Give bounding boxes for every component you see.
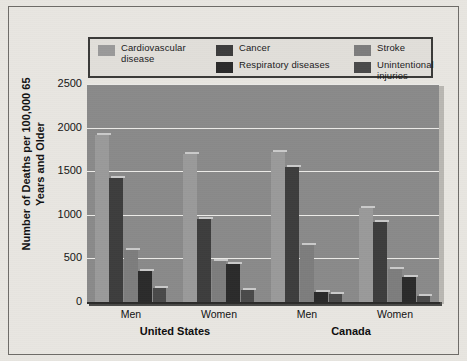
bar-top-face bbox=[228, 262, 242, 264]
bar-top-face bbox=[316, 290, 330, 292]
y-tick-label-1500: 1500 bbox=[38, 164, 82, 176]
legend-label: Cancer bbox=[239, 43, 270, 54]
bar-top-face bbox=[126, 248, 140, 250]
figure-chart-deaths-by-cause: Cardiovascular diseaseCancerRespiratory … bbox=[0, 0, 467, 361]
y-axis-tick-labels: 05001000150020002500 bbox=[36, 0, 82, 361]
bar-top-face bbox=[111, 176, 125, 178]
bar bbox=[138, 271, 152, 302]
legend-column-2: CancerRespiratory diseases bbox=[216, 43, 330, 77]
bar bbox=[109, 178, 123, 302]
bar-top-face bbox=[243, 288, 257, 290]
gridline-1000 bbox=[87, 215, 439, 216]
chart-legend: Cardiovascular diseaseCancerRespiratory … bbox=[88, 37, 433, 78]
x-tick-label-women-4: Women bbox=[351, 308, 439, 320]
bar bbox=[226, 264, 240, 302]
bar bbox=[124, 250, 138, 302]
bar-top-face bbox=[419, 294, 433, 296]
legend-column-1: Cardiovascular disease bbox=[98, 43, 186, 60]
bar bbox=[300, 245, 314, 302]
bar bbox=[285, 167, 299, 302]
y-tick-label-0: 0 bbox=[38, 295, 82, 307]
bar bbox=[95, 135, 109, 302]
bar-top-face bbox=[390, 267, 404, 269]
bar-top-face bbox=[97, 133, 111, 135]
bar-top-face bbox=[404, 275, 418, 277]
x-tick-label-men-3: Men bbox=[263, 308, 351, 320]
bar-top-face bbox=[331, 292, 345, 294]
legend-entry: Stroke bbox=[354, 43, 434, 59]
bar-top-face bbox=[302, 243, 316, 245]
x-group-label-united-states: United States bbox=[87, 325, 263, 337]
x-group-label-canada: Canada bbox=[263, 325, 439, 337]
bar bbox=[271, 152, 285, 302]
bar-top-face bbox=[185, 152, 199, 154]
bar bbox=[402, 277, 416, 302]
bar bbox=[388, 269, 402, 302]
plot-area bbox=[87, 84, 439, 302]
y-tick-label-2500: 2500 bbox=[38, 77, 82, 89]
bar-top-face bbox=[199, 217, 213, 219]
bar bbox=[183, 154, 197, 302]
x-axis-baseline bbox=[87, 302, 440, 304]
bar bbox=[153, 288, 167, 302]
x-tick-label-women-2: Women bbox=[175, 308, 263, 320]
y-tick-label-1000: 1000 bbox=[38, 208, 82, 220]
legend-label: Stroke bbox=[377, 43, 405, 54]
bar-top-face bbox=[375, 220, 389, 222]
legend-entry: Unintentional injuries bbox=[354, 60, 434, 76]
legend-swatch-unintentional-injuries bbox=[354, 62, 371, 73]
gridline-2500 bbox=[87, 84, 439, 85]
legend-swatch-stroke bbox=[354, 45, 371, 56]
gridline-1500 bbox=[87, 171, 439, 172]
bar bbox=[314, 292, 328, 302]
y-tick-label-500: 500 bbox=[38, 251, 82, 263]
legend-swatch-respiratory-diseases bbox=[216, 62, 233, 73]
bar bbox=[241, 290, 255, 302]
bar-top-face bbox=[140, 269, 154, 271]
bar bbox=[197, 219, 211, 302]
bar-top-face bbox=[214, 259, 228, 261]
legend-label: Unintentional injuries bbox=[377, 60, 434, 81]
bar bbox=[212, 261, 226, 302]
legend-entry: Cardiovascular disease bbox=[98, 43, 186, 59]
bar bbox=[329, 294, 343, 302]
bar-top-face bbox=[273, 150, 287, 152]
legend-entry: Respiratory diseases bbox=[216, 60, 330, 76]
bar-top-face bbox=[155, 286, 169, 288]
gridline-2000 bbox=[87, 128, 439, 129]
bar-top-face bbox=[361, 206, 375, 208]
plot-depth-right bbox=[439, 86, 444, 304]
y-tick-label-2000: 2000 bbox=[38, 121, 82, 133]
legend-label: Respiratory diseases bbox=[239, 60, 330, 71]
legend-swatch-cardiovascular-disease bbox=[98, 45, 115, 56]
x-tick-label-men-1: Men bbox=[87, 308, 175, 320]
legend-label: Cardiovascular disease bbox=[121, 43, 186, 64]
bar bbox=[359, 208, 373, 302]
legend-entry: Cancer bbox=[216, 43, 330, 59]
legend-column-3: StrokeUnintentional injuries bbox=[354, 43, 434, 77]
bar-top-face bbox=[287, 165, 301, 167]
bar bbox=[373, 222, 387, 302]
legend-swatch-cancer bbox=[216, 45, 233, 56]
